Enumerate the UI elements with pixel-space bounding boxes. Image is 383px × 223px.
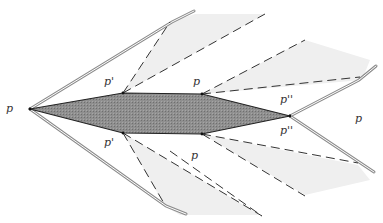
label-p-prime-top: p' [104, 76, 114, 87]
label-p-bottom-mid: p [191, 150, 198, 161]
diagram-figure [0, 0, 383, 223]
label-p-left: p [6, 103, 13, 114]
central-polygon [30, 93, 290, 134]
label-p-right: p [355, 113, 362, 124]
label-p-double-prime-bottom: p'' [280, 125, 293, 136]
label-p-double-prime-top: p'' [280, 94, 293, 105]
label-p-prime-bottom: p' [104, 137, 114, 148]
fan-lower-right [202, 134, 370, 195]
label-p-top-mid: p [193, 76, 200, 87]
diagram-canvas: p p' p p'' p p'' p' p [0, 0, 383, 223]
